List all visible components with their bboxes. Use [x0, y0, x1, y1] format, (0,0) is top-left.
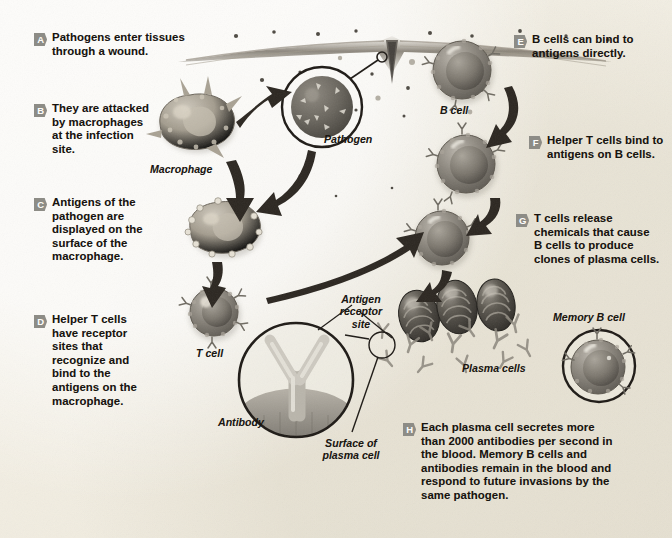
label-surface-of-plasma-cell: Surface of plasma cell: [312, 437, 390, 462]
label-memory-b-cell: Memory B cell: [553, 311, 625, 323]
label-macrophage: Macrophage: [150, 163, 212, 175]
step-callout-d: D Helper T cells have receptor sites tha…: [34, 313, 156, 408]
label-t-cell: T cell: [196, 347, 223, 359]
step-badge-h: H: [403, 423, 416, 436]
step-callout-h: H Each plasma cell secretes more than 20…: [403, 421, 617, 503]
step-badge-f: F: [529, 136, 542, 149]
step-badge-c: C: [34, 198, 47, 211]
step-callout-f: F Helper T cells bind to antigens on B c…: [529, 134, 672, 161]
label-antigen-receptor-site: Antigen receptor site: [330, 293, 392, 330]
step-badge-a: A: [34, 33, 47, 46]
label-pathogen: Pathogen: [324, 133, 372, 145]
label-b-cell: B cell: [440, 104, 468, 116]
step-text-g: T cells release chemicals that cause B c…: [534, 212, 660, 266]
step-text-e: B cells can bind to antigens directly.: [532, 33, 658, 60]
immune-response-diagram: A Pathogens enter tissues through a woun…: [0, 0, 672, 538]
step-callout-g: G T cells release chemicals that cause B…: [516, 212, 660, 266]
label-plasma-cells: Plasma cells: [462, 362, 526, 374]
label-antibody: Antibody: [218, 416, 264, 428]
step-badge-g: G: [516, 214, 529, 227]
step-callout-e: E B cells can bind to antigens directly.: [514, 33, 658, 60]
step-text-h: Each plasma cell secretes more than 2000…: [421, 421, 617, 503]
step-text-f: Helper T cells bind to antigens on B cel…: [547, 134, 672, 161]
step-text-b: They are attacked by macrophages at the …: [52, 102, 156, 156]
step-text-c: Antigens of the pathogen are displayed o…: [52, 196, 156, 264]
step-callout-b: B They are attacked by macrophages at th…: [34, 102, 156, 156]
step-text-a: Pathogens enter tissues through a wound.: [52, 31, 204, 58]
step-badge-d: D: [34, 315, 47, 328]
step-callout-c: C Antigens of the pathogen are displayed…: [34, 196, 156, 264]
step-text-d: Helper T cells have receptor sites that …: [52, 313, 156, 408]
step-callout-a: A Pathogens enter tissues through a woun…: [34, 31, 204, 58]
step-badge-e: E: [514, 35, 527, 48]
step-badge-b: B: [34, 104, 47, 117]
